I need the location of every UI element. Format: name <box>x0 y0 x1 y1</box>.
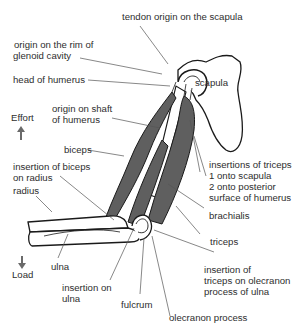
label-insertion-ulna-1: insertion on <box>62 283 112 294</box>
label-origin-shaft-2: of humerus <box>52 115 100 126</box>
label-head-humerus: head of humerus <box>13 75 85 86</box>
label-insertion-triceps-olecranon-2: triceps on olecranon <box>204 276 290 287</box>
label-olecranon-process: olecranon process <box>169 313 247 324</box>
arrow-up-icon <box>17 126 25 140</box>
label-insertion-ulna-2: ulna <box>62 294 80 305</box>
label-insertion-biceps-1: insertion of biceps <box>13 162 90 173</box>
label-insertions-triceps-1: insertions of triceps <box>209 160 292 171</box>
label-insertion-triceps-olecranon-3: process of ulna <box>204 287 269 298</box>
label-radius: radius <box>13 186 39 197</box>
label-insertions-triceps-4: surface of humerus <box>209 193 291 204</box>
label-effort: Effort <box>11 113 34 124</box>
arrow-down-icon <box>18 256 26 269</box>
label-fulcrum: fulcrum <box>121 300 152 311</box>
label-insertions-triceps-2: 1 onto scapula <box>209 171 271 182</box>
label-brachialis: brachialis <box>209 211 250 222</box>
label-insertion-biceps-2: on radius <box>13 173 52 184</box>
label-ulna: ulna <box>51 262 69 273</box>
label-insertion-triceps-olecranon-1: insertion of <box>204 265 251 276</box>
label-tendon-origin: tendon origin on the scapula <box>122 12 243 23</box>
label-origin-shaft-1: origin on shaft <box>52 104 112 115</box>
label-insertions-triceps-3: 2 onto posterior <box>209 182 276 193</box>
label-biceps: biceps <box>64 145 92 156</box>
label-scapula: scapula <box>195 78 228 89</box>
label-origin-rim-2: glenoid cavity <box>13 51 71 62</box>
label-load: Load <box>12 270 33 281</box>
label-triceps: triceps <box>210 237 238 248</box>
label-origin-rim-1: origin on the rim of <box>14 40 93 51</box>
